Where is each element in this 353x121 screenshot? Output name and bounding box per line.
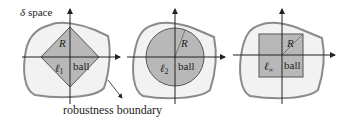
- radius-label: R: [180, 37, 188, 49]
- ball-word: ball: [178, 60, 195, 72]
- space-label: δ space: [20, 6, 52, 18]
- panel-l2: R ℓ2 ball: [127, 9, 225, 104]
- ball-word: ball: [284, 59, 301, 71]
- boundary-pointer-arrow: [108, 80, 122, 98]
- panel-linf: R ℓ∞ ball: [233, 9, 335, 104]
- panel-l1: R ℓ1 ball δ space: [20, 6, 120, 104]
- robustness-boundary-label: robustness boundary: [63, 103, 162, 117]
- radius-label: R: [58, 37, 66, 49]
- radius-label: R: [286, 37, 294, 49]
- norm-balls-diagram: R ℓ1 ball δ space robustness boundary R …: [0, 0, 353, 121]
- ball-word: ball: [73, 60, 90, 72]
